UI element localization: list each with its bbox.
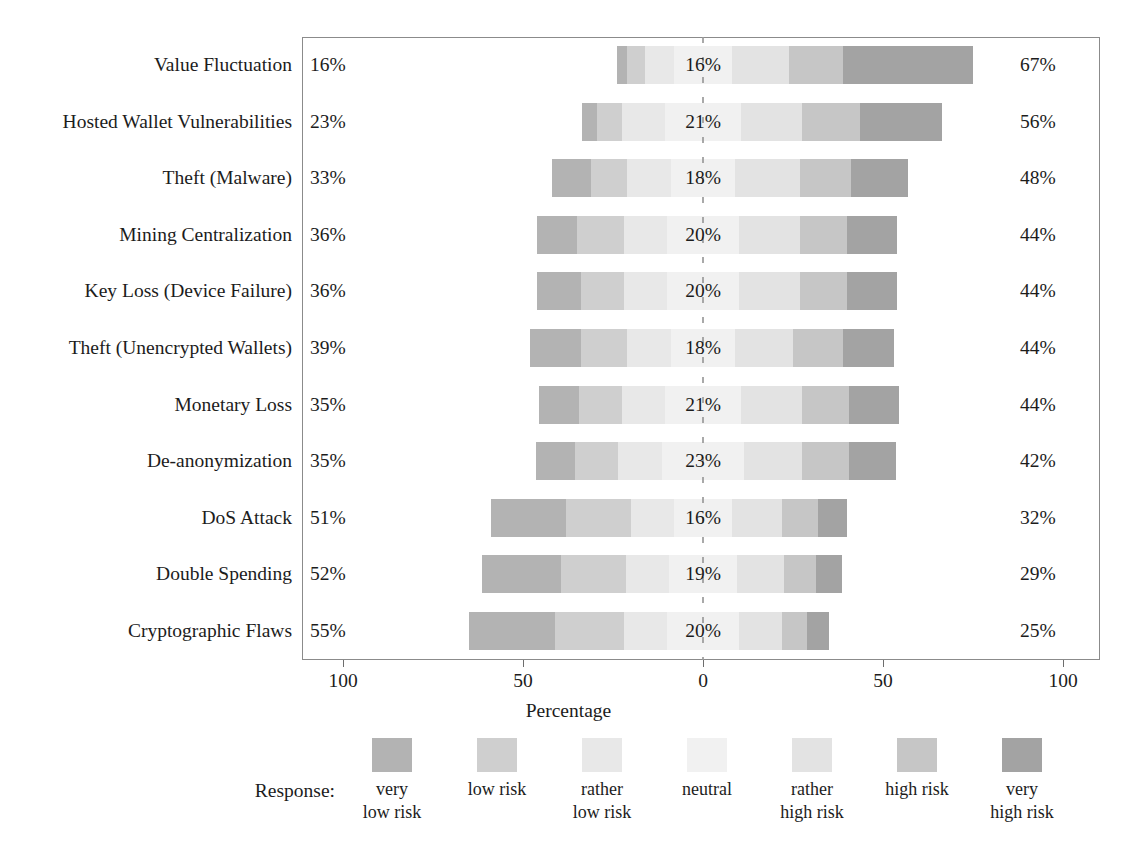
legend-item-rather-low-risk: rather low risk [542, 738, 662, 824]
bar-segment-rather-low-risk [645, 46, 674, 84]
bar-segment-rather-low-risk [624, 216, 667, 254]
bar-segment-rather-high-risk [732, 46, 790, 84]
legend-swatch-very-low-risk [372, 738, 412, 772]
x-tick-label: 100 [308, 670, 378, 692]
bar-segment-very-low-risk [482, 555, 561, 593]
bar-segment-very-low-risk [539, 386, 579, 424]
bar-segment-rather-low-risk [631, 499, 674, 537]
stacked-bar [0, 159, 1137, 197]
x-axis-title: Percentage [0, 700, 1137, 722]
legend-label: rather high risk [752, 778, 872, 824]
bar-segment-low-risk [579, 386, 622, 424]
bar-segment-high-risk [802, 442, 849, 480]
bar-segment-very-high-risk [818, 499, 847, 537]
table-row: Key Loss (Device Failure)36%44%20% [0, 263, 1137, 320]
bar-segment-rather-low-risk [624, 272, 667, 310]
table-row: Hosted Wallet Vulnerabilities23%56%21% [0, 94, 1137, 151]
bar-segment-rather-high-risk [741, 386, 802, 424]
bar-segment-very-high-risk [860, 103, 943, 141]
bar-segment-very-high-risk [851, 159, 909, 197]
stacked-bar [0, 612, 1137, 650]
x-tick [703, 660, 704, 667]
bar-segment-rather-high-risk [739, 272, 800, 310]
bar-segment-very-high-risk [843, 329, 893, 367]
bar-segment-very-low-risk [537, 216, 577, 254]
legend-swatch-neutral [687, 738, 727, 772]
legend-item-low-risk: low risk [437, 738, 557, 801]
bar-segment-rather-high-risk [739, 216, 800, 254]
table-row: DoS Attack51%32%16% [0, 490, 1137, 547]
bar-segment-very-low-risk [552, 159, 592, 197]
legend-item-very-low-risk: very low risk [332, 738, 452, 824]
legend-swatch-very-high-risk [1002, 738, 1042, 772]
bar-segment-very-low-risk [469, 612, 555, 650]
bar-segment-high-risk [800, 272, 847, 310]
stacked-bar [0, 555, 1137, 593]
bar-segment-very-low-risk [530, 329, 580, 367]
legend-swatch-rather-high-risk [792, 738, 832, 772]
bar-segment-very-low-risk [536, 442, 576, 480]
bar-segment-high-risk [802, 103, 860, 141]
bar-segment-rather-high-risk [741, 103, 802, 141]
table-row: Monetary Loss35%44%21% [0, 377, 1137, 434]
legend-label: very high risk [962, 778, 1082, 824]
legend-swatch-rather-low-risk [582, 738, 622, 772]
stacked-bar [0, 442, 1137, 480]
bar-segment-very-high-risk [816, 555, 841, 593]
bar-segment-high-risk [793, 329, 843, 367]
x-tick-label: 50 [848, 670, 918, 692]
table-row: De-anonymization35%42%23% [0, 433, 1137, 490]
stacked-bar [0, 46, 1137, 84]
stacked-bar [0, 329, 1137, 367]
bar-segment-rather-high-risk [732, 499, 782, 537]
x-tick-label: 100 [1028, 670, 1098, 692]
bar-segment-very-high-risk [847, 272, 897, 310]
x-tick-label: 50 [488, 670, 558, 692]
likert-diverging-bar-chart: Value Fluctuation16%67%16%Hosted Wallet … [0, 0, 1137, 865]
bar-segment-rather-low-risk [622, 386, 665, 424]
legend: Response: very low risklow riskrather lo… [0, 738, 1137, 848]
bar-segment-rather-high-risk [735, 159, 800, 197]
bar-segment-rather-high-risk [739, 612, 782, 650]
table-row: Double Spending52%29%19% [0, 546, 1137, 603]
legend-label: low risk [437, 778, 557, 801]
bar-segment-low-risk [591, 159, 627, 197]
bar-segment-rather-low-risk [622, 103, 665, 141]
legend-label: neutral [647, 778, 767, 801]
legend-swatch-high-risk [897, 738, 937, 772]
x-tick [523, 660, 524, 667]
table-row: Cryptographic Flaws55%25%20% [0, 603, 1137, 660]
bar-segment-low-risk [555, 612, 623, 650]
legend-item-neutral: neutral [647, 738, 767, 801]
legend-item-high-risk: high risk [857, 738, 977, 801]
bar-segment-high-risk [800, 216, 847, 254]
x-tick [883, 660, 884, 667]
stacked-bar [0, 499, 1137, 537]
bar-segment-low-risk [577, 216, 624, 254]
zero-reference-line [702, 37, 704, 660]
bar-segment-rather-low-risk [627, 159, 670, 197]
stacked-bar [0, 216, 1137, 254]
bar-rows: Value Fluctuation16%67%16%Hosted Wallet … [0, 37, 1137, 660]
bar-segment-rather-low-risk [624, 612, 667, 650]
bar-segment-rather-low-risk [626, 555, 669, 593]
legend-item-rather-high-risk: rather high risk [752, 738, 872, 824]
bar-segment-low-risk [575, 442, 618, 480]
bar-segment-very-low-risk [537, 272, 580, 310]
table-row: Theft (Malware)33%48%18% [0, 150, 1137, 207]
bar-segment-low-risk [581, 272, 624, 310]
bar-segment-very-high-risk [847, 216, 897, 254]
x-tick [1063, 660, 1064, 667]
bar-segment-low-risk [581, 329, 628, 367]
bar-segment-rather-low-risk [627, 329, 670, 367]
bar-segment-very-high-risk [843, 46, 973, 84]
bar-segment-very-high-risk [849, 442, 896, 480]
bar-segment-low-risk [561, 555, 626, 593]
bar-segment-high-risk [782, 612, 807, 650]
legend-label: very low risk [332, 778, 452, 824]
bar-segment-very-low-risk [582, 103, 596, 141]
bar-segment-rather-high-risk [737, 555, 784, 593]
legend-item-very-high-risk: very high risk [962, 738, 1082, 824]
stacked-bar [0, 386, 1137, 424]
bar-segment-very-high-risk [849, 386, 899, 424]
